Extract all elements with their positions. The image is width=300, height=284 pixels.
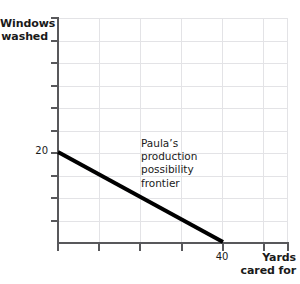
ppf-annotation-line2: production: [141, 150, 197, 163]
x-axis-tick-label-40: 40: [202, 251, 242, 262]
x-axis-title-line2: cared for: [218, 265, 296, 278]
y-axis-title-line2: washed: [0, 31, 48, 44]
ppf-chart-figure: Windows washed Yards cared for 20 40 Pau…: [0, 0, 300, 284]
y-axis-tick-label-20: 20: [10, 145, 48, 156]
ppf-annotation-line3: possibility: [141, 163, 197, 176]
ppf-annotation: Paula’s production possibility frontier: [141, 137, 197, 190]
ppf-annotation-line1: Paula’s: [141, 137, 197, 150]
y-axis-title: Windows washed: [0, 18, 48, 43]
ppf-annotation-line4: frontier: [141, 177, 197, 190]
y-axis-title-line1: Windows: [0, 18, 48, 31]
